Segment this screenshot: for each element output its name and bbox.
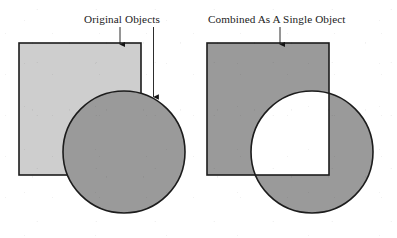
panel-combined-object: [195, 0, 393, 238]
combined-object-drawing: [195, 0, 393, 238]
panel-original-objects: [0, 0, 198, 238]
original-objects-drawing: [0, 0, 198, 238]
combined-filled-region: [207, 43, 373, 213]
original-circle: [63, 91, 185, 213]
figure-container: Original Objects Combined As A Single Ob…: [0, 0, 397, 238]
